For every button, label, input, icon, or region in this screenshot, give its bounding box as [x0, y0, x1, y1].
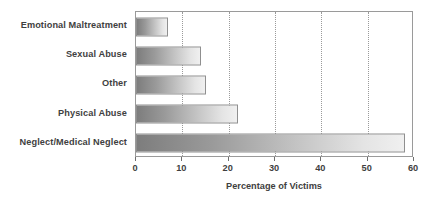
x-tick-label-60: 60	[408, 163, 418, 173]
x-axis-title: Percentage of Victims	[135, 181, 413, 191]
bar-row-sexual-abuse	[136, 41, 412, 70]
x-tick-10	[181, 157, 182, 161]
x-tick-label-40: 40	[315, 163, 325, 173]
x-tick-0	[135, 157, 136, 161]
bar-row-emotional-maltreatment	[136, 12, 412, 41]
plot-area	[135, 11, 413, 157]
bar-physical-abuse	[136, 105, 238, 124]
bar-row-physical-abuse	[136, 100, 412, 129]
x-tick-label-20: 20	[223, 163, 233, 173]
x-tick-30	[274, 157, 275, 161]
x-tick-20	[228, 157, 229, 161]
bar-emotional-maltreatment	[136, 17, 168, 36]
category-label-other: Other	[102, 69, 127, 98]
x-axis-tick-labels: 0102030405060	[135, 163, 413, 176]
bar-row-other	[136, 70, 412, 99]
bar-row-neglect-medical-neglect	[136, 129, 412, 158]
x-tick-label-0: 0	[132, 163, 137, 173]
category-axis: Emotional Maltreatment Sexual Abuse Othe…	[0, 11, 131, 157]
bar-other	[136, 75, 206, 94]
x-tick-label-50: 50	[362, 163, 372, 173]
category-label-emotional-maltreatment: Emotional Maltreatment	[21, 11, 127, 40]
category-label-physical-abuse: Physical Abuse	[58, 99, 127, 128]
bar-sexual-abuse	[136, 46, 201, 65]
bars-group	[136, 12, 412, 156]
bar-chart: Emotional Maltreatment Sexual Abuse Othe…	[0, 0, 428, 201]
x-tick-label-30: 30	[269, 163, 279, 173]
x-tick-50	[367, 157, 368, 161]
category-label-sexual-abuse: Sexual Abuse	[66, 40, 127, 69]
x-axis-ticks	[135, 157, 413, 162]
category-label-neglect-medical-neglect: Neglect/Medical Neglect	[20, 128, 127, 157]
x-tick-40	[320, 157, 321, 161]
x-tick-60	[413, 157, 414, 161]
x-tick-label-10: 10	[176, 163, 186, 173]
bar-neglect-medical-neglect	[136, 134, 405, 153]
